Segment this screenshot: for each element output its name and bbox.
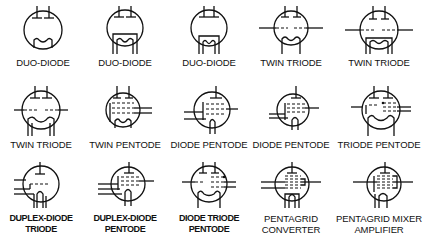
duo-diode-tube-icon [95, 4, 155, 56]
pentagrid-mixer-amplifier-tube-icon [343, 162, 415, 212]
symbol-label: DUPLEX-DIODE TRIODE [0, 213, 84, 235]
diode-triode-pentode-tube-icon [174, 162, 244, 212]
symbol-diode-pentode-2: DIODE PENTODE [248, 86, 334, 150]
duplex-diode-triode-tube-icon [6, 162, 76, 212]
twin-triode-tube-icon [6, 86, 76, 138]
symbol-duo-diode-3: DUO-DIODE [166, 4, 252, 68]
symbol-diode-triode-pentode: DIODE TRIODE PENTODE [166, 162, 252, 235]
symbol-label: TRIODE PENTODE [336, 139, 422, 150]
diode-pentode-tube-icon [255, 86, 327, 138]
symbol-label: DIODE TRIODE PENTODE [166, 213, 252, 235]
symbol-label: DUO-DIODE [0, 57, 86, 68]
symbol-label: PENTAGRID MIXER AMPLIFIER [336, 213, 422, 235]
duo-diode-tube-icon [179, 4, 239, 56]
symbol-twin-triode-3: TWIN TRIODE [0, 86, 84, 150]
symbol-pentagrid-converter: PENTAGRID CONVERTER [248, 162, 334, 235]
symbol-label: DUPLEX-DIODE PENTODE [82, 213, 168, 235]
symbol-label: DUO-DIODE [82, 57, 168, 68]
symbol-label: TWIN TRIODE [248, 57, 334, 68]
symbol-duo-diode-1: DUO-DIODE [0, 4, 86, 68]
symbol-diode-pentode-1: DIODE PENTODE [166, 86, 252, 150]
symbol-label: DUO-DIODE [166, 57, 252, 68]
duo-diode-tube-icon [13, 4, 73, 56]
symbol-twin-triode-2: TWIN TRIODE [336, 4, 422, 68]
symbol-label: TWIN TRIODE [336, 57, 422, 68]
twin-triode-tube-icon [255, 4, 327, 56]
symbol-duplex-diode-triode: DUPLEX-DIODE TRIODE [0, 162, 84, 235]
symbol-duo-diode-2: DUO-DIODE [82, 4, 168, 68]
twin-triode-tube-icon [343, 4, 415, 56]
symbol-label: TWIN TRIODE [0, 139, 84, 150]
symbol-twin-pentode: TWIN PENTODE [82, 86, 168, 150]
symbol-label: TWIN PENTODE [82, 139, 168, 150]
symbol-triode-pentode: TRIODE PENTODE [336, 86, 422, 150]
symbol-twin-triode-1: TWIN TRIODE [248, 4, 334, 68]
symbol-duplex-diode-pentode: DUPLEX-DIODE PENTODE [82, 162, 168, 235]
pentagrid-converter-tube-icon [255, 162, 327, 212]
triode-pentode-tube-icon [343, 86, 415, 138]
symbol-label: PENTAGRID CONVERTER [248, 213, 334, 235]
symbol-label: DIODE PENTODE [166, 139, 252, 150]
diode-pentode-tube-icon [174, 86, 244, 138]
symbol-pentagrid-mixer-amplifier: PENTAGRID MIXER AMPLIFIER [336, 162, 422, 235]
twin-pentode-tube-icon [90, 86, 160, 138]
duplex-diode-pentode-tube-icon [90, 162, 160, 212]
symbol-label: DIODE PENTODE [248, 139, 334, 150]
